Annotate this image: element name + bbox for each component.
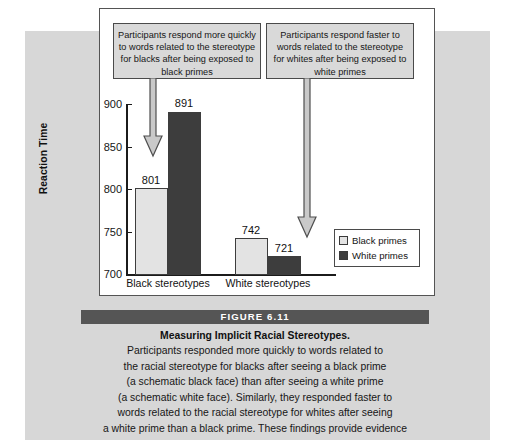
chart-legend: Black primes White primes [334, 229, 420, 267]
down-arrow-icon [296, 78, 322, 242]
x-axis-label-black-stereotypes: Black stereotypes [113, 277, 223, 289]
figure-caption-line: Participants responded more quickly to w… [60, 343, 450, 359]
bar-black-stereotypes-white-primes [168, 112, 201, 275]
bar-value-801: 801 [129, 174, 173, 186]
figure-caption-line: a white prime than a black prime. These … [60, 421, 450, 437]
legend-item-white-primes: White primes [339, 248, 415, 263]
figure-caption-line: (a schematic black face) than after seei… [60, 374, 450, 390]
legend-item-black-primes: Black primes [339, 233, 415, 248]
bar-value-721: 721 [262, 242, 306, 254]
figure-caption: Measuring Implicit Racial Stereotypes. P… [60, 328, 450, 437]
y-axis-tick-label: 850 [90, 141, 122, 153]
y-axis-tick [126, 189, 132, 190]
legend-label: White primes [352, 250, 408, 261]
figure-caption-title: Measuring Implicit Racial Stereotypes. [60, 328, 450, 343]
bar-value-891: 891 [162, 97, 206, 109]
down-arrow-icon [142, 78, 168, 161]
y-axis-tick [126, 232, 132, 233]
y-axis-tick-label: 900 [90, 98, 122, 110]
figure-caption-line: words related to the racial stereotype f… [60, 405, 450, 421]
bar-value-742: 742 [229, 224, 273, 236]
callout-box-left: Participants respond more quickly to wor… [113, 23, 261, 79]
bar-black-stereotypes-black-primes [135, 188, 168, 275]
legend-swatch-icon [339, 236, 348, 245]
y-axis-tick-label: 800 [90, 183, 122, 195]
callout-box-right: Participants respond faster to words rel… [266, 23, 414, 79]
y-axis-tick [126, 104, 132, 105]
y-axis-title: Reaction Time [38, 109, 49, 209]
x-axis-label-white-stereotypes: White stereotypes [213, 277, 323, 289]
legend-swatch-icon [339, 251, 348, 260]
legend-label: Black primes [352, 235, 407, 246]
bar-white-stereotypes-white-primes [268, 256, 301, 275]
figure-number-bar: FIGURE 6.11 [81, 310, 429, 324]
y-axis-tick [126, 274, 132, 275]
figure-page: Participants respond more quickly to wor… [0, 0, 510, 440]
y-axis-tick [126, 147, 132, 148]
y-axis-tick-label: 750 [90, 226, 122, 238]
figure-caption-line: (a schematic white face). Similarly, the… [60, 390, 450, 406]
figure-caption-line: the racial stereotype for blacks after s… [60, 359, 450, 375]
